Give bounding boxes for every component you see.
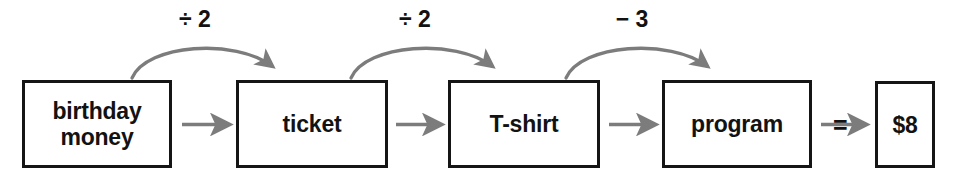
- box-label-tshirt: T-shirt: [490, 111, 559, 137]
- box-label-program: program: [691, 111, 783, 137]
- box-tshirt[interactable]: T-shirt: [448, 80, 600, 168]
- box-birthday-money[interactable]: birthday money: [22, 80, 172, 168]
- box-amount[interactable]: $8: [875, 81, 935, 168]
- box-program[interactable]: program: [662, 80, 812, 168]
- operation-label-2: ÷ 2: [385, 8, 445, 31]
- equals-sign: =: [833, 113, 848, 138]
- operation-arrow-1: [132, 48, 272, 78]
- box-label-amount: $8: [892, 112, 917, 138]
- operation-label-1: ÷ 2: [165, 8, 225, 31]
- operation-label-3: − 3: [602, 8, 662, 31]
- flowchart-diagram: birthday money ticket T-shirt program $8…: [0, 0, 958, 182]
- box-label-birthday-money: birthday money: [52, 98, 141, 150]
- operation-arrow-3: [566, 48, 707, 78]
- box-label-ticket: ticket: [283, 111, 342, 137]
- box-ticket[interactable]: ticket: [236, 80, 388, 168]
- operation-arrow-2: [351, 48, 492, 78]
